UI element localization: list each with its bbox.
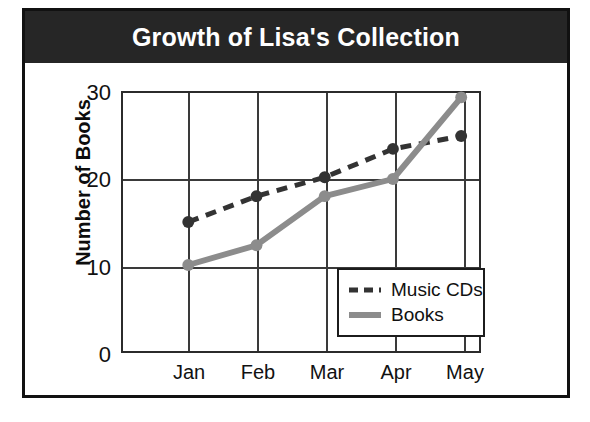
y-tick-label: 10: [87, 255, 111, 281]
legend-label-music-cds: Music CDs: [391, 279, 483, 301]
plot-area: 0102030 JanFebMarAprMay Music CDs: [121, 91, 481, 353]
x-tick-label: Mar: [310, 361, 344, 384]
y-tick-label: 20: [87, 167, 111, 193]
data-point: [182, 216, 194, 228]
legend-label-books: Books: [391, 304, 444, 326]
chart-title: Growth of Lisa's Collection: [132, 23, 460, 52]
data-point: [387, 143, 399, 155]
figure-frame: Growth of Lisa's Collection Number of Bo…: [22, 8, 570, 398]
data-point: [319, 190, 331, 202]
x-tick-label: Jan: [173, 361, 205, 384]
x-tick-label: Feb: [241, 361, 275, 384]
y-tick-label: 30: [87, 80, 111, 106]
data-point: [455, 130, 467, 142]
x-tick-label: Apr: [380, 361, 411, 384]
y-tick-label: 0: [99, 342, 111, 368]
legend-swatch-solid: [348, 306, 382, 324]
data-point: [251, 190, 263, 202]
data-point: [319, 171, 331, 183]
data-point: [387, 173, 399, 185]
legend-swatch-dashed: [348, 281, 382, 299]
data-point: [455, 91, 467, 103]
chart-body: Number of Books 0102030 JanFebMarAprMay …: [25, 63, 567, 395]
data-point: [182, 259, 194, 271]
x-tick-label: May: [446, 361, 484, 384]
data-point: [251, 239, 263, 251]
legend-item-music-cds: Music CDs: [348, 277, 474, 302]
legend: Music CDs Books: [337, 268, 485, 337]
legend-item-books: Books: [348, 302, 474, 327]
title-banner: Growth of Lisa's Collection: [25, 11, 567, 63]
